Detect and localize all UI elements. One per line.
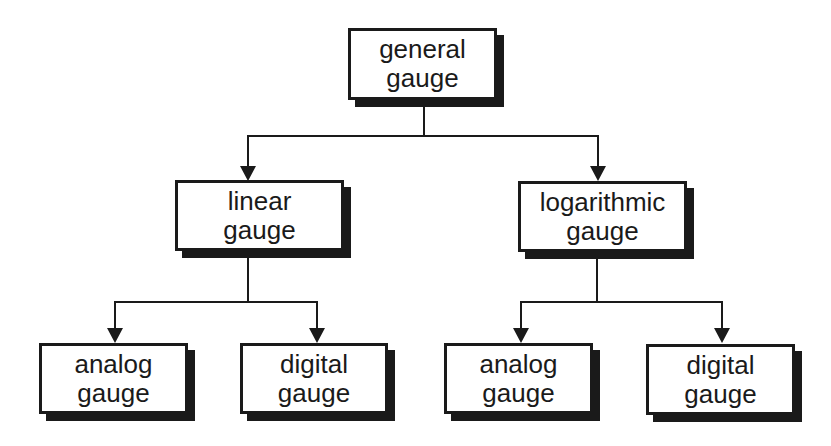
arrowhead-icon bbox=[240, 166, 256, 181]
node-general-gauge: general gauge bbox=[348, 28, 497, 100]
node-label-line2: gauge bbox=[386, 64, 458, 93]
node-linear-analog-gauge: analog gauge bbox=[39, 343, 188, 414]
node-log-analog-gauge: analog gauge bbox=[444, 343, 593, 414]
arrowhead-icon bbox=[107, 328, 123, 343]
node-label-line2: gauge bbox=[77, 379, 149, 408]
arrowhead-icon bbox=[513, 328, 529, 343]
node-label-line2: gauge bbox=[278, 379, 350, 408]
node-label-line1: linear bbox=[228, 187, 292, 216]
node-label-line1: general bbox=[379, 35, 466, 64]
node-label-line1: analog bbox=[74, 350, 152, 379]
node-label-line2: gauge bbox=[482, 379, 554, 408]
node-linear-digital-gauge: digital gauge bbox=[240, 343, 388, 414]
node-label-line1: logarithmic bbox=[540, 188, 666, 217]
node-linear-gauge: linear gauge bbox=[175, 180, 344, 251]
node-label-line1: digital bbox=[687, 351, 755, 380]
node-log-digital-gauge: digital gauge bbox=[646, 344, 795, 415]
arrowhead-icon bbox=[590, 166, 606, 181]
node-label-line1: analog bbox=[479, 350, 557, 379]
arrowhead-icon bbox=[714, 328, 730, 343]
arrowhead-icon bbox=[309, 328, 325, 343]
node-label-line2: gauge bbox=[684, 380, 756, 409]
gauge-hierarchy-diagram: general gauge linear gauge logarithmic g… bbox=[0, 0, 831, 446]
node-logarithmic-gauge: logarithmic gauge bbox=[518, 181, 687, 252]
node-label-line1: digital bbox=[280, 350, 348, 379]
node-label-line2: gauge bbox=[223, 216, 295, 245]
node-label-line2: gauge bbox=[566, 217, 638, 246]
